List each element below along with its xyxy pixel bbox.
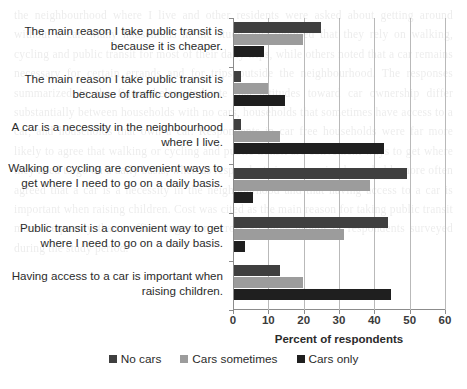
bar [234,119,241,130]
bar-group [234,18,445,67]
value-tick-label: 0 [218,314,248,326]
bar [234,265,280,276]
bar-group [234,67,445,116]
category-label: A car is a necessity in the neighbourhoo… [0,120,223,149]
category-label: Having access to a car is important when… [0,269,223,298]
legend-item-cars-only[interactable]: Cars only [297,352,359,366]
bar [234,83,268,94]
category-tick [229,164,233,165]
bar [234,34,303,45]
plot-area: 0102030405060 Percent of respondents [233,18,445,310]
category-tick [229,18,233,19]
x-axis-title: Percent of respondents [233,333,445,345]
bar [234,143,384,154]
legend-label: Cars only [309,352,359,366]
category-tick [229,213,233,214]
bar-group [234,213,445,262]
bar [234,46,264,57]
value-tick-label: 50 [395,314,425,326]
category-label: The main reason I take public transit is… [0,72,223,101]
bar [234,71,241,82]
value-tick-label: 20 [289,314,319,326]
bar [234,217,388,228]
gridline [445,18,446,310]
bar-group [234,261,445,310]
legend-label: Cars sometimes [192,352,277,366]
bar [234,289,391,300]
category-tick [229,261,233,262]
bar-group [234,115,445,164]
legend-item-cars-sometimes[interactable]: Cars sometimes [180,352,277,366]
value-tick-label: 30 [324,314,354,326]
value-tick-label: 40 [359,314,389,326]
chart-legend: No cars Cars sometimes Cars only [0,352,467,366]
bar [234,22,321,33]
category-axis-labels: The main reason I take public transit is… [0,18,228,310]
legend-swatch-no-cars [109,355,117,363]
bar [234,131,280,142]
bar [234,229,344,240]
category-tick [229,115,233,116]
legend-swatch-cars-only [297,355,305,363]
grouped-bar-chart: The main reason I take public transit is… [0,0,467,389]
category-label: Walking or cycling are convenient ways t… [0,161,223,190]
bar [234,277,303,288]
legend-label: No cars [121,352,162,366]
bar [234,180,370,191]
bar [234,192,253,203]
value-tick-label: 60 [430,314,460,326]
value-tick-label: 10 [253,314,283,326]
bar-group [234,164,445,213]
category-tick [229,67,233,68]
bar [234,241,245,252]
category-label: Public transit is a convenient way to ge… [0,221,223,250]
bar [234,95,285,106]
legend-swatch-cars-sometimes [180,355,188,363]
legend-item-no-cars[interactable]: No cars [109,352,162,366]
category-label: The main reason I take public transit is… [0,24,223,53]
bar [234,168,407,179]
